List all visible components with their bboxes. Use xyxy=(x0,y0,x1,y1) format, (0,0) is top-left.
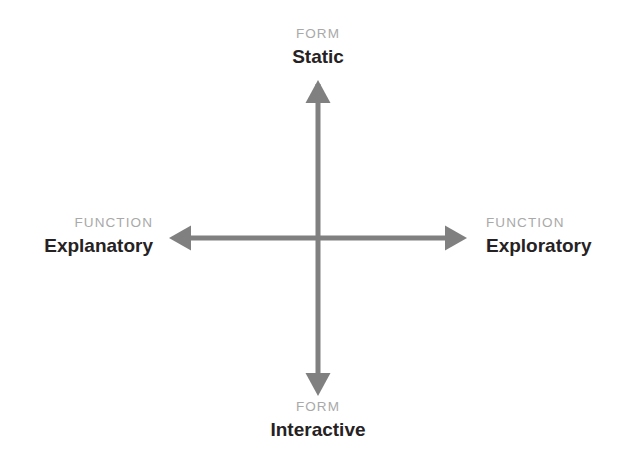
axis-label-right: FUNCTION Exploratory xyxy=(486,216,631,255)
axis-label-right-kicker: FUNCTION xyxy=(486,216,631,230)
axis-label-left: FUNCTION Explanatory xyxy=(0,216,153,255)
axis-label-left-kicker: FUNCTION xyxy=(0,216,153,230)
axis-label-left-term: Explanatory xyxy=(0,236,153,255)
up-arrowhead-icon xyxy=(306,80,331,103)
axis-label-bottom-kicker: FORM xyxy=(168,400,468,414)
horizontal-axis-line xyxy=(186,236,450,241)
axis-label-bottom-term: Interactive xyxy=(168,420,468,439)
axis-label-top-kicker: FORM xyxy=(168,27,468,41)
axis-label-right-term: Exploratory xyxy=(486,236,631,255)
right-arrowhead-icon xyxy=(445,226,467,251)
axis-label-top-term: Static xyxy=(168,47,468,66)
left-arrowhead-icon xyxy=(169,226,191,251)
axis-label-bottom: FORM Interactive xyxy=(168,400,468,439)
axis-label-top: FORM Static xyxy=(168,27,468,66)
vertical-axis-line xyxy=(316,84,321,382)
diagram-canvas: FORM Static FORM Interactive FUNCTION Ex… xyxy=(0,0,631,455)
down-arrowhead-icon xyxy=(306,373,331,396)
